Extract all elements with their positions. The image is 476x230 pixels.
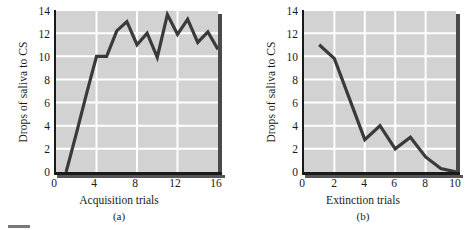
x-tick-b-2: 2 (323, 178, 345, 190)
plot-area-b (304, 10, 456, 172)
y-tick-b-12: 12 (276, 29, 298, 41)
x-tick-a-4: 4 (83, 178, 105, 190)
x-tick-b-8: 8 (414, 178, 436, 190)
plot-area-a (56, 10, 218, 172)
y-tick-a-2: 2 (28, 144, 50, 156)
y-tick-a-12: 12 (28, 29, 50, 41)
y-tick-b-14: 14 (276, 6, 298, 18)
y-tick-b-10: 10 (276, 52, 298, 64)
y-tick-a-14: 14 (28, 6, 50, 18)
x-axis-label-a: Acquisition trials (12, 194, 226, 206)
data-series-line (319, 45, 456, 172)
x-tick-b-0: 0 (291, 178, 313, 190)
y-tick-a-0: 0 (28, 167, 50, 179)
y-tick-b-2: 2 (276, 144, 298, 156)
plot-canvas-a (56, 10, 218, 172)
y-tick-a-8: 8 (28, 75, 50, 87)
y-axis-label-b: Drops of saliva to CS (265, 22, 277, 162)
y-tick-a-6: 6 (28, 98, 50, 110)
x-axis-line-a (54, 172, 222, 175)
y-axis-line-a (54, 10, 56, 174)
x-tick-a-0: 0 (43, 178, 65, 190)
y-axis-line-b (302, 10, 304, 174)
y-tick-b-6: 6 (276, 98, 298, 110)
chart-panel-b: Drops of saliva to CS 14 12 10 8 6 4 2 0… (238, 0, 476, 230)
x-tick-b-10: 10 (444, 178, 466, 190)
y-axis-label-a: Drops of saliva to CS (17, 22, 29, 162)
chart-panel-a: Drops of saliva to CS 14 12 10 8 6 4 2 0… (0, 0, 238, 230)
panel-caption-b: (b) (256, 210, 470, 222)
x-tick-a-8: 8 (124, 178, 146, 190)
line-chart-svg-b (304, 10, 456, 172)
y-tick-b-4: 4 (276, 121, 298, 133)
footer-rule-mark (8, 225, 30, 228)
x-tick-b-6: 6 (383, 178, 405, 190)
y-tick-b-0: 0 (276, 167, 298, 179)
y-tick-b-8: 8 (276, 75, 298, 87)
x-axis-label-b: Extinction trials (256, 194, 470, 206)
plot-canvas-b (304, 10, 456, 172)
panel-caption-a: (a) (12, 210, 226, 222)
x-tick-a-16: 16 (205, 178, 227, 190)
figure-two-panel-conditioning-charts: Drops of saliva to CS 14 12 10 8 6 4 2 0… (0, 0, 476, 230)
y-tick-a-4: 4 (28, 121, 50, 133)
line-chart-svg-a (56, 10, 218, 172)
x-tick-b-4: 4 (353, 178, 375, 190)
x-axis-line-b (302, 172, 460, 175)
y-tick-a-10: 10 (28, 52, 50, 64)
x-tick-a-12: 12 (164, 178, 186, 190)
